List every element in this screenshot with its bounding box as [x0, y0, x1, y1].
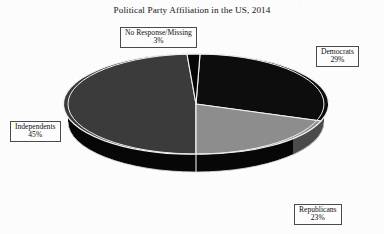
label-republicans: Republicans 23%: [294, 204, 342, 225]
chart-page: Political Party Affiliation in the US, 2…: [0, 0, 384, 234]
label-independents: Independents 45%: [10, 121, 61, 142]
label-no-response: No Response/Missing 3%: [120, 27, 197, 48]
pie-top-face: [63, 54, 328, 154]
label-democrats-value: 29%: [321, 56, 354, 64]
label-democrats: Democrats 29%: [316, 46, 359, 67]
label-independents-value: 45%: [15, 131, 56, 139]
page-title: Political Party Affiliation in the US, 2…: [0, 5, 384, 15]
label-no-response-value: 3%: [125, 37, 192, 45]
label-republicans-value: 23%: [299, 214, 337, 222]
